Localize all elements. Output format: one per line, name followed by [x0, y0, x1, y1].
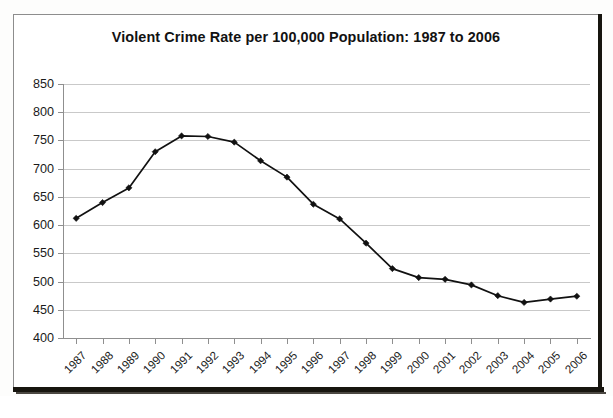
- x-tick-mark: [577, 339, 578, 344]
- y-tick-label: 750: [8, 134, 54, 147]
- x-tick-mark: [182, 339, 183, 344]
- y-tick-label: 500: [8, 276, 54, 289]
- x-tick-mark: [155, 339, 156, 344]
- y-tick-label: 650: [8, 191, 54, 204]
- x-tick-mark: [498, 339, 499, 344]
- x-tick-mark: [550, 339, 551, 344]
- y-tick-label: 600: [8, 219, 54, 232]
- x-tick-mark: [287, 339, 288, 344]
- x-tick-mark: [208, 339, 209, 344]
- y-gridline: [63, 140, 590, 141]
- y-tick-label: 700: [8, 163, 54, 176]
- scan-margin: [0, 396, 613, 418]
- x-tick-mark: [392, 339, 393, 344]
- y-tick-label: 850: [8, 78, 54, 91]
- x-tick-mark: [103, 339, 104, 344]
- x-tick-mark: [524, 339, 525, 344]
- y-tick-label: 450: [8, 304, 54, 317]
- x-tick-mark: [76, 339, 77, 344]
- y-axis-line: [63, 84, 64, 339]
- chart-title: Violent Crime Rate per 100,000 Populatio…: [13, 29, 599, 45]
- y-gridline: [63, 310, 590, 311]
- y-tick-label: 400: [8, 332, 54, 345]
- y-gridline: [63, 84, 590, 85]
- x-tick-mark: [471, 339, 472, 344]
- chart-frame: [13, 14, 599, 388]
- x-tick-mark: [261, 339, 262, 344]
- y-gridline: [63, 253, 590, 254]
- y-gridline: [63, 197, 590, 198]
- x-tick-mark: [129, 339, 130, 344]
- x-axis-line: [63, 338, 591, 339]
- x-tick-mark: [419, 339, 420, 344]
- x-tick-mark: [313, 339, 314, 344]
- scan-edge-bottom-secondary: [16, 392, 606, 394]
- y-gridline: [63, 112, 590, 113]
- scan-edge-right: [598, 14, 602, 392]
- y-tick-label: 550: [8, 247, 54, 260]
- x-tick-mark: [445, 339, 446, 344]
- y-gridline: [63, 169, 590, 170]
- scanned-page: Violent Crime Rate per 100,000 Populatio…: [0, 0, 613, 418]
- y-tick-label: 800: [8, 106, 54, 119]
- y-gridline: [63, 282, 590, 283]
- x-tick-mark: [366, 339, 367, 344]
- x-tick-mark: [234, 339, 235, 344]
- x-tick-mark: [340, 339, 341, 344]
- y-gridline: [63, 225, 590, 226]
